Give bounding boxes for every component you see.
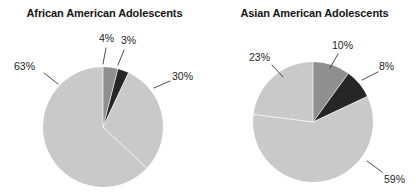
label-leader-line [44, 73, 58, 84]
label-leader-line [118, 50, 124, 65]
label-leader-line [154, 81, 170, 88]
pie-slice-percent-label: 4% [99, 32, 114, 44]
label-leader-line [362, 72, 378, 80]
pie-slice-percent-label: 59% [384, 173, 405, 185]
pie-chart-right [210, 0, 419, 194]
pie-slice-percent-label: 30% [172, 70, 193, 82]
label-leader-line [367, 161, 382, 172]
pie-slice-percent-label: 63% [14, 60, 35, 72]
chart-panel-asian-american: Asian American Adolescents 10%8%59%23% [210, 0, 419, 194]
chart-panel-african-american: African American Adolescents 4%3%30%63% [0, 0, 209, 194]
label-leader-line [103, 48, 106, 64]
figure-two-pie-charts: African American Adolescents 4%3%30%63% … [0, 0, 419, 194]
pie-slice-percent-label: 23% [249, 51, 270, 63]
pie-slice-percent-label: 3% [121, 34, 136, 46]
pie-slice-percent-label: 10% [332, 39, 353, 51]
pie-slice [253, 62, 313, 122]
pie-chart-left [0, 0, 209, 194]
pie-slice-percent-label: 8% [379, 60, 394, 72]
